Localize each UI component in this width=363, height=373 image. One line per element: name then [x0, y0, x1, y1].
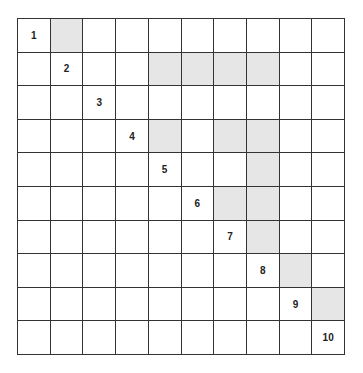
diagonal-label-cell: 1 — [18, 19, 51, 53]
shaded-cell — [149, 53, 182, 87]
grid-cell — [280, 53, 313, 87]
shaded-cell — [51, 19, 84, 53]
diagonal-label-cell: 6 — [182, 187, 215, 221]
grid-cell — [51, 288, 84, 322]
grid-cell — [182, 288, 215, 322]
shaded-cell — [312, 288, 345, 322]
shaded-cell — [247, 53, 280, 87]
shaded-cell — [280, 254, 313, 288]
grid-cell — [18, 221, 51, 255]
diagonal-label-cell: 9 — [280, 288, 313, 322]
grid-cell — [18, 321, 51, 355]
grid-cell — [312, 86, 345, 120]
grid-cell — [312, 19, 345, 53]
diagonal-label-cell: 4 — [116, 120, 149, 154]
grid-cell — [149, 288, 182, 322]
grid-cell — [280, 120, 313, 154]
grid-cell — [312, 53, 345, 87]
grid-cell — [280, 187, 313, 221]
grid-cell — [149, 221, 182, 255]
grid-cell — [149, 86, 182, 120]
grid-cell — [83, 221, 116, 255]
grid-cell — [247, 288, 280, 322]
grid-cell — [83, 254, 116, 288]
grid-cell — [149, 187, 182, 221]
diagonal-label-cell: 5 — [149, 153, 182, 187]
grid-cell — [182, 254, 215, 288]
shaded-cell — [182, 53, 215, 87]
grid-cell — [312, 221, 345, 255]
grid-cell — [312, 254, 345, 288]
grid-cell — [149, 19, 182, 53]
grid-cell — [149, 321, 182, 355]
grid-cell — [247, 19, 280, 53]
grid-cell — [18, 288, 51, 322]
grid-cell — [280, 321, 313, 355]
grid-cell — [116, 19, 149, 53]
grid-cell — [18, 120, 51, 154]
grid-cell — [18, 86, 51, 120]
grid-cell — [214, 288, 247, 322]
grid-cell — [214, 86, 247, 120]
shaded-cell — [247, 153, 280, 187]
grid-cell — [83, 288, 116, 322]
shaded-cell — [247, 120, 280, 154]
grid-cell — [51, 254, 84, 288]
grid-cell — [312, 187, 345, 221]
grid-cell — [83, 321, 116, 355]
diagonal-label-cell: 7 — [214, 221, 247, 255]
grid-cell — [312, 153, 345, 187]
shaded-cell — [214, 187, 247, 221]
grid-cell — [280, 153, 313, 187]
grid-cell — [214, 19, 247, 53]
grid-cell — [83, 53, 116, 87]
grid-cell — [182, 221, 215, 255]
grid-cell — [116, 53, 149, 87]
grid-cell — [312, 120, 345, 154]
grid-cell — [18, 187, 51, 221]
shaded-cell — [247, 221, 280, 255]
grid-cell — [51, 221, 84, 255]
grid-cell — [214, 321, 247, 355]
grid-cell — [51, 187, 84, 221]
grid-cell — [247, 321, 280, 355]
grid-cell — [18, 153, 51, 187]
diagonal-label-cell: 10 — [312, 321, 345, 355]
grid-cell — [182, 120, 215, 154]
shaded-cell — [247, 187, 280, 221]
grid-cell — [18, 254, 51, 288]
shaded-cell — [214, 120, 247, 154]
grid-cell — [51, 120, 84, 154]
grid-cell — [51, 321, 84, 355]
number-grid: 12345678910 — [17, 18, 345, 355]
grid-cell — [116, 254, 149, 288]
grid-cell — [214, 254, 247, 288]
grid-cell — [116, 321, 149, 355]
shaded-cell — [214, 53, 247, 87]
grid-cell — [182, 19, 215, 53]
diagonal-label-cell: 2 — [51, 53, 84, 87]
grid-cell — [182, 321, 215, 355]
grid-cell — [83, 153, 116, 187]
diagonal-label-cell: 3 — [83, 86, 116, 120]
grid-cell — [280, 86, 313, 120]
grid-cell — [18, 53, 51, 87]
diagonal-label-cell: 8 — [247, 254, 280, 288]
grid-cell — [182, 86, 215, 120]
grid-cell — [83, 120, 116, 154]
grid-cell — [116, 221, 149, 255]
grid-cell — [83, 19, 116, 53]
grid-cell — [116, 288, 149, 322]
grid-cell — [51, 153, 84, 187]
grid-cell — [214, 153, 247, 187]
grid-cell — [116, 153, 149, 187]
grid-cell — [116, 187, 149, 221]
grid-cell — [280, 221, 313, 255]
grid-cell — [83, 187, 116, 221]
grid-cell — [182, 153, 215, 187]
grid-cell — [116, 86, 149, 120]
grid-cell — [149, 254, 182, 288]
shaded-cell — [149, 120, 182, 154]
grid-cell — [280, 19, 313, 53]
grid-cell — [247, 86, 280, 120]
